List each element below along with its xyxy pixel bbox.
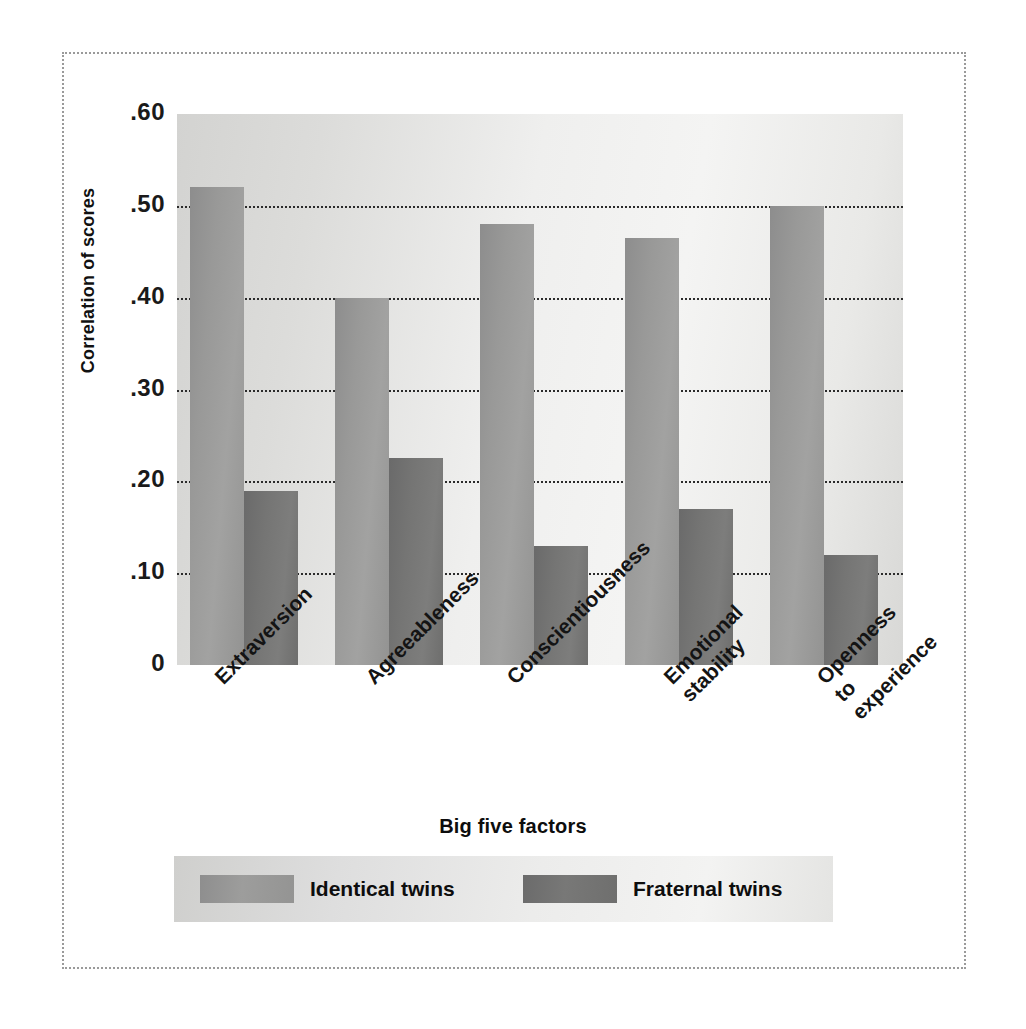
y-tick-label: .20 [130, 465, 165, 493]
plot-area [177, 114, 903, 665]
y-tick-label: .60 [130, 98, 165, 126]
legend-item-fraternal-twins[interactable]: Fraternal twins [523, 875, 782, 903]
y-tick-label: 0 [151, 649, 165, 677]
y-tick-label: .50 [130, 190, 165, 218]
y-axis-tick-labels: 0.10.20.30.40.50.60 [110, 0, 165, 1029]
bar-agreeableness-identical [335, 298, 389, 665]
y-tick-label: .10 [130, 557, 165, 585]
x-axis-title: Big five factors [0, 815, 1026, 838]
chart-legend: Identical twins Fraternal twins [174, 856, 833, 922]
y-axis-title: Correlation of scores [78, 131, 99, 431]
legend-item-identical-twins[interactable]: Identical twins [200, 875, 455, 903]
bar-extraversion-identical [190, 187, 244, 665]
bar-openness-to-experience-identical [770, 206, 824, 665]
legend-label-identical-twins: Identical twins [310, 877, 455, 901]
bar-emotional-stability-identical [625, 238, 679, 665]
y-tick-label: .30 [130, 374, 165, 402]
y-tick-label: .40 [130, 282, 165, 310]
legend-label-fraternal-twins: Fraternal twins [633, 877, 782, 901]
legend-swatch-identical-twins [200, 875, 294, 903]
legend-swatch-fraternal-twins [523, 875, 617, 903]
bar-conscientiousness-identical [480, 224, 534, 665]
